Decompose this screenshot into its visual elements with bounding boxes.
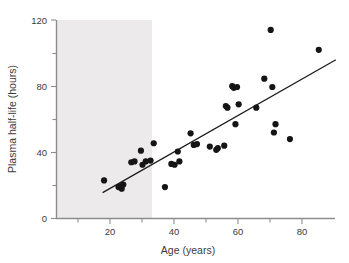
- x-tick-label-60: 60: [233, 226, 244, 237]
- data-point: [232, 121, 238, 127]
- data-point: [147, 158, 153, 164]
- background-shade-band: [57, 20, 152, 218]
- y-tick-label-40: 40: [36, 147, 47, 158]
- y-tick-label-120: 120: [31, 15, 47, 26]
- data-point: [287, 136, 293, 142]
- y-tick-label-0: 0: [42, 213, 47, 224]
- y-axis-minor-ticks: [53, 54, 57, 186]
- x-tick-label-40: 40: [169, 226, 180, 237]
- data-point: [268, 27, 274, 33]
- data-point: [261, 76, 267, 82]
- data-point: [120, 181, 126, 187]
- data-point: [224, 105, 230, 111]
- data-point: [234, 84, 240, 90]
- data-point: [175, 148, 181, 154]
- x-axis-title: Age (years): [161, 244, 215, 256]
- x-tick-label-80: 80: [297, 226, 308, 237]
- x-tick-label-20: 20: [105, 226, 116, 237]
- data-point: [194, 141, 200, 147]
- y-axis-title: Plasma half-life (hours): [6, 65, 18, 173]
- data-point: [176, 158, 182, 164]
- data-point: [269, 84, 275, 90]
- plot-canvas: 120 80 40 0 20 40 60 80 Age (years) Plas…: [0, 0, 349, 263]
- data-point: [138, 148, 144, 154]
- data-point: [272, 121, 278, 127]
- data-point: [221, 143, 227, 149]
- y-tick-label-80: 80: [36, 81, 47, 92]
- data-point: [316, 47, 322, 53]
- data-point: [207, 143, 213, 149]
- data-point: [131, 158, 137, 164]
- data-point: [151, 140, 157, 146]
- data-point: [101, 177, 107, 183]
- data-point: [271, 129, 277, 135]
- data-point: [187, 130, 193, 136]
- scatter-plot-figure: 120 80 40 0 20 40 60 80 Age (years) Plas…: [0, 0, 349, 263]
- data-point: [236, 101, 242, 107]
- data-point: [162, 184, 168, 190]
- data-point: [215, 145, 221, 151]
- data-point: [253, 105, 259, 111]
